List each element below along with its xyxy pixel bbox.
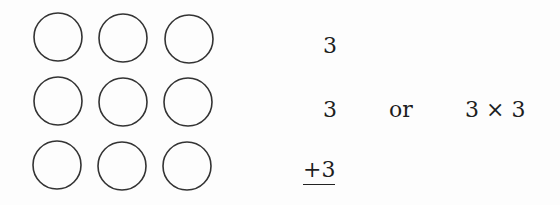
circle xyxy=(165,15,213,63)
circle-grid xyxy=(0,0,230,205)
circle xyxy=(99,78,147,126)
circle xyxy=(98,142,146,190)
or-label: or xyxy=(389,99,413,121)
circle xyxy=(163,142,211,190)
circle xyxy=(99,14,147,62)
multiplication-expression: 3 × 3 xyxy=(465,99,525,121)
circle xyxy=(164,78,212,126)
circle xyxy=(34,13,82,61)
circle xyxy=(34,77,82,125)
circle xyxy=(33,141,81,189)
addend-3: +3 xyxy=(303,159,335,185)
addend-1: 3 xyxy=(323,35,337,57)
addend-2: 3 xyxy=(323,99,337,121)
